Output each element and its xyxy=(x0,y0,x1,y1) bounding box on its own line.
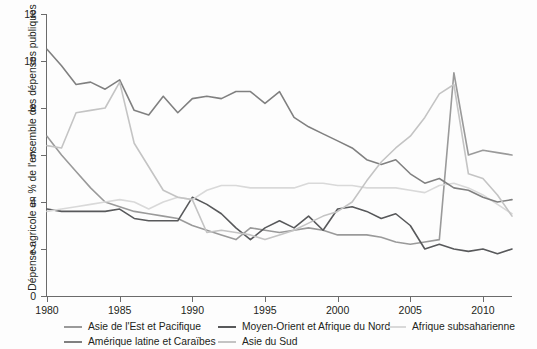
x-tick-mark xyxy=(192,297,193,302)
y-tick-label: 12 xyxy=(4,9,36,20)
legend-line-swatch-icon xyxy=(388,326,406,328)
x-tick-label: 1980 xyxy=(27,305,67,316)
legend-line-swatch-icon xyxy=(218,341,236,343)
legend-item-label: Moyen-Orient et Afrique du Nord xyxy=(242,322,390,332)
series-line xyxy=(47,73,512,245)
x-tick-mark xyxy=(265,297,266,302)
y-tick-label: 2 xyxy=(4,244,36,255)
x-tick-mark xyxy=(338,297,339,302)
legend-row: Amérique latine et CaraïbesAsie du Sud xyxy=(0,335,537,349)
x-tick-label: 2000 xyxy=(318,305,358,316)
legend-line-swatch-icon xyxy=(64,326,82,328)
legend-item-label: Amérique latine et Caraïbes xyxy=(88,337,216,347)
legend-line-swatch-icon xyxy=(64,341,82,343)
x-tick-label: 1995 xyxy=(245,305,285,316)
x-axis-line xyxy=(46,296,512,297)
x-tick-label: 2010 xyxy=(463,305,503,316)
legend-item[interactable]: Moyen-Orient et Afrique du Nord xyxy=(218,322,390,332)
series-lines xyxy=(47,14,512,296)
y-tick-mark xyxy=(41,61,46,62)
legend-item-label: Afrique subsaharienne xyxy=(412,322,515,332)
legend-item[interactable]: Asie de l'Est et Pacifique xyxy=(64,322,201,332)
chart-figure: Dépense agricole en % de l'ensemble des … xyxy=(0,0,537,349)
y-tick-mark xyxy=(41,202,46,203)
x-tick-mark xyxy=(483,297,484,302)
plot-area xyxy=(47,14,512,296)
series-line xyxy=(47,49,512,202)
y-tick-label: 10 xyxy=(4,56,36,67)
legend-item-label: Asie du Sud xyxy=(242,337,298,347)
legend-item[interactable]: Afrique subsaharienne xyxy=(388,322,515,332)
y-tick-label: 6 xyxy=(4,150,36,161)
y-tick-mark xyxy=(41,296,46,297)
legend-item[interactable]: Amérique latine et Caraïbes xyxy=(64,337,216,347)
legend-item-label: Asie de l'Est et Pacifique xyxy=(88,322,201,332)
legend-row: Asie de l'Est et PacifiqueMoyen-Orient e… xyxy=(0,320,537,334)
y-tick-mark xyxy=(41,249,46,250)
y-tick-label: 0 xyxy=(4,291,36,302)
y-tick-mark xyxy=(41,14,46,15)
x-tick-mark xyxy=(120,297,121,302)
x-tick-label: 1985 xyxy=(100,305,140,316)
x-tick-label: 1990 xyxy=(172,305,212,316)
x-tick-label: 2005 xyxy=(390,305,430,316)
series-line xyxy=(47,82,512,239)
chart-legend: Asie de l'Est et PacifiqueMoyen-Orient e… xyxy=(0,320,537,349)
y-tick-label: 4 xyxy=(4,197,36,208)
x-tick-mark xyxy=(47,297,48,302)
x-tick-mark xyxy=(410,297,411,302)
legend-line-swatch-icon xyxy=(218,326,236,328)
y-tick-mark xyxy=(41,108,46,109)
y-tick-mark xyxy=(41,155,46,156)
y-tick-label: 8 xyxy=(4,103,36,114)
legend-item[interactable]: Asie du Sud xyxy=(218,337,298,347)
